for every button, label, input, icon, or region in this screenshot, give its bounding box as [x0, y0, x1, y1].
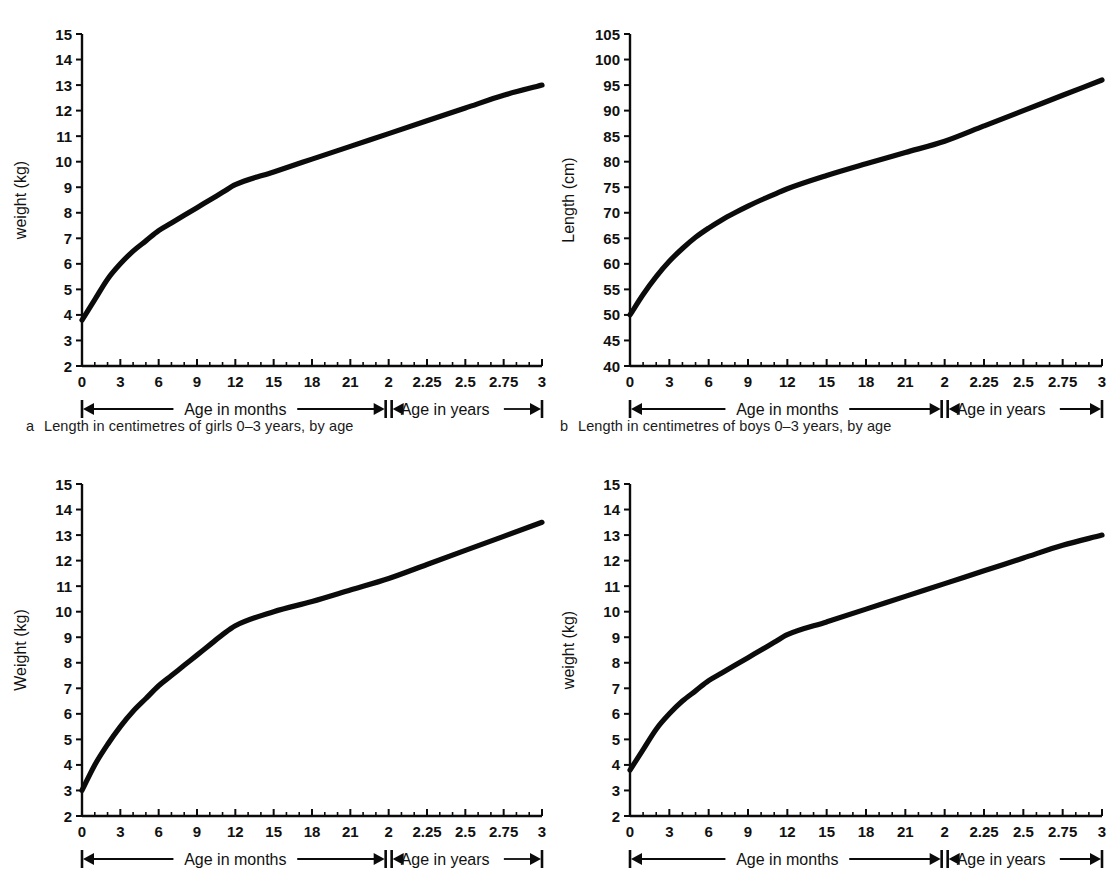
x-tick-label: 2.5 [1013, 373, 1034, 390]
x-tick-label: 0 [626, 823, 634, 840]
y-tick-label: 55 [603, 281, 620, 298]
x-tick-label: 21 [342, 373, 359, 390]
y-tick-label: 13 [55, 527, 72, 544]
x-tick-label: 12 [779, 373, 796, 390]
x-tick-label: 2.5 [455, 373, 476, 390]
x-tick-label: 12 [227, 373, 244, 390]
band-arrow-head [374, 853, 385, 865]
y-tick-label: 13 [55, 77, 72, 94]
x-tick-label: 2.75 [489, 823, 518, 840]
y-tick-label: 15 [55, 476, 72, 493]
y-tick-label: 8 [64, 204, 72, 221]
y-tick-label: 9 [612, 629, 620, 646]
x-tick-label: 0 [626, 373, 634, 390]
growth-curve [630, 80, 1102, 315]
y-tick-label: 9 [64, 179, 72, 196]
y-tick-label: 10 [603, 603, 620, 620]
x-tick-label: 12 [227, 823, 244, 840]
y-tick-label: 6 [64, 255, 72, 272]
y-tick-label: 7 [64, 680, 72, 697]
y-axis-title: weight (kg) [12, 161, 29, 240]
y-tick-label: 105 [595, 26, 620, 43]
y-tick-label: 11 [56, 578, 72, 595]
x-tick-label: 3 [116, 823, 124, 840]
x-tick-label: 2.25 [412, 373, 441, 390]
chart-panel-b: 4045505560657075808590951001050369121518… [548, 0, 1108, 450]
y-tick-label: 15 [603, 476, 620, 493]
chart-panel-a: 2345678910111213141503691215182122.252.5… [0, 0, 548, 450]
band-arrow-head [930, 853, 941, 865]
y-tick-label: 85 [603, 128, 620, 145]
x-tick-label: 21 [897, 823, 914, 840]
x-tick-label: 6 [154, 823, 162, 840]
caption-letter-b: b [560, 418, 574, 434]
caption-text-a: Length in centimetres of girls 0–3 years… [44, 418, 353, 434]
x-tick-label: 3 [1098, 373, 1106, 390]
y-tick-label: 60 [603, 255, 620, 272]
y-tick-label: 7 [64, 230, 72, 247]
y-tick-label: 100 [595, 51, 620, 68]
x-tick-label: 18 [304, 373, 321, 390]
band-label-months: Age in months [736, 401, 838, 418]
y-tick-label: 12 [603, 552, 620, 569]
y-tick-label: 5 [64, 731, 72, 748]
x-tick-label: 3 [538, 373, 546, 390]
x-tick-label: 9 [744, 373, 752, 390]
caption-letter-a: a [26, 418, 40, 434]
y-tick-label: 50 [603, 306, 620, 323]
x-tick-label: 21 [897, 373, 914, 390]
x-tick-label: 9 [193, 373, 201, 390]
y-tick-label: 12 [55, 102, 72, 119]
x-tick-label: 6 [704, 823, 712, 840]
chart-panel-d: 2345678910111213141503691215182122.252.5… [548, 450, 1108, 893]
band-label-years: Age in years [957, 851, 1046, 868]
growth-curve [82, 522, 542, 790]
x-tick-label: 3 [538, 823, 546, 840]
y-tick-label: 13 [603, 527, 620, 544]
y-tick-label: 3 [612, 782, 620, 799]
x-tick-label: 2 [384, 823, 392, 840]
y-tick-label: 5 [64, 281, 72, 298]
x-tick-label: 6 [704, 373, 712, 390]
y-tick-label: 8 [64, 654, 72, 671]
growth-chart-a: 2345678910111213141503691215182122.252.5… [0, 0, 548, 450]
band-arrow-head [930, 403, 941, 415]
x-tick-label: 2.75 [1048, 823, 1077, 840]
y-tick-label: 9 [64, 629, 72, 646]
band-label-years: Age in years [401, 401, 490, 418]
y-tick-label: 11 [56, 128, 72, 145]
y-axis-title: Weight (kg) [12, 609, 29, 691]
y-tick-label: 10 [55, 603, 72, 620]
x-tick-label: 3 [116, 373, 124, 390]
figure-grid: 2345678910111213141503691215182122.252.5… [0, 0, 1108, 893]
band-label-months: Age in months [184, 401, 286, 418]
y-tick-label: 75 [603, 179, 620, 196]
x-tick-label: 18 [858, 823, 875, 840]
growth-chart-d: 2345678910111213141503691215182122.252.5… [548, 450, 1108, 893]
x-tick-label: 15 [265, 373, 282, 390]
y-tick-label: 6 [64, 705, 72, 722]
x-tick-label: 3 [665, 823, 673, 840]
y-tick-label: 7 [612, 680, 620, 697]
x-tick-label: 12 [779, 823, 796, 840]
growth-chart-b: 4045505560657075808590951001050369121518… [548, 0, 1108, 450]
panel-caption-a: aLength in centimetres of girls 0–3 year… [26, 418, 353, 434]
x-tick-label: 2.25 [412, 823, 441, 840]
y-tick-label: 12 [55, 552, 72, 569]
x-tick-label: 9 [193, 823, 201, 840]
x-tick-label: 6 [154, 373, 162, 390]
x-tick-label: 0 [78, 373, 86, 390]
y-tick-label: 4 [64, 306, 73, 323]
x-tick-label: 15 [265, 823, 282, 840]
y-tick-label: 4 [612, 756, 621, 773]
y-tick-label: 5 [612, 731, 620, 748]
y-tick-label: 95 [603, 77, 620, 94]
y-tick-label: 14 [603, 501, 620, 518]
y-tick-label: 11 [604, 578, 620, 595]
y-tick-label: 8 [612, 654, 620, 671]
x-tick-label: 15 [818, 373, 835, 390]
y-tick-label: 40 [603, 358, 620, 375]
x-tick-label: 9 [744, 823, 752, 840]
y-tick-label: 10 [55, 153, 72, 170]
growth-curve [630, 535, 1102, 770]
